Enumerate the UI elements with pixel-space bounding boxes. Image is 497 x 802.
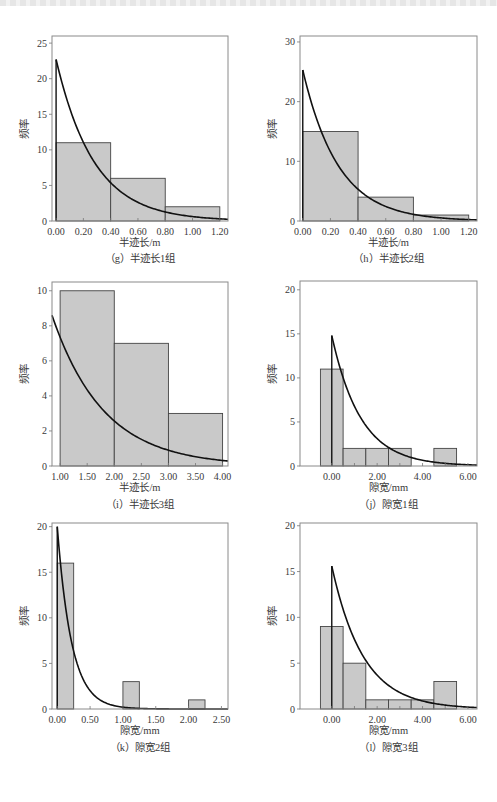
panel-caption: （k）隙宽2组 (110, 741, 172, 753)
y-tick-label: 15 (285, 566, 295, 577)
x-tick-label: 6.00 (459, 714, 477, 725)
x-tick-label: 1.00 (184, 226, 202, 237)
x-tick-label: 0.60 (129, 226, 147, 237)
histogram-bar (343, 663, 366, 709)
x-tick-label: 0.00 (323, 471, 341, 482)
y-tick-label: 30 (285, 36, 295, 47)
x-tick-label: 4.00 (414, 714, 432, 725)
x-tick-label: 0.50 (81, 714, 99, 725)
exponential-fit-curve (57, 527, 228, 709)
y-tick-label: 10 (285, 372, 295, 383)
x-tick-label: 3.00 (160, 471, 178, 482)
x-tick-label: 1.00 (432, 226, 450, 237)
chart-panel-g: 05101520250.000.200.400.600.801.001.20频率… (18, 36, 229, 264)
y-tick-label: 20 (37, 73, 47, 84)
x-tick-label: 1.50 (78, 471, 96, 482)
x-tick-label: 0.00 (294, 226, 312, 237)
y-tick-label: 8 (42, 320, 47, 331)
chart-panel-l: 051015200.002.004.006.00频率隙宽/mm（l）隙宽3组 (266, 520, 477, 753)
x-tick-label: 0.40 (102, 226, 120, 237)
y-axis-title: 频率 (18, 606, 30, 626)
x-tick-label: 1.20 (211, 226, 229, 237)
histogram-bars (320, 627, 456, 709)
x-axis-title: 隙宽/mm (369, 481, 408, 493)
x-axis-title: 隙宽/mm (369, 724, 408, 736)
histogram-bar (57, 563, 73, 709)
x-tick-label: 0.20 (322, 226, 340, 237)
exponential-fit-curve (332, 336, 477, 465)
x-tick-label: 0.40 (349, 226, 367, 237)
chart-panel-h: 01020300.000.200.400.600.801.001.20频率半迹长… (266, 36, 477, 264)
x-tick-label: 1.00 (114, 714, 132, 725)
histogram-bar (111, 178, 166, 221)
y-tick-label: 20 (285, 96, 295, 107)
plot-frame (52, 523, 228, 709)
y-tick-label: 5 (290, 658, 295, 669)
panel-caption: （j）隙宽1组 (359, 498, 418, 510)
x-tick-label: 2.50 (133, 471, 151, 482)
panel-caption: （h）半迹长2组 (353, 252, 425, 264)
x-tick-label: 6.00 (459, 471, 477, 482)
x-tick-label: 0.00 (323, 714, 341, 725)
x-tick-label: 2.50 (213, 714, 231, 725)
histogram-bar (123, 682, 139, 709)
histogram-bar (56, 143, 111, 221)
panel-caption: （i）半迹长3组 (106, 498, 175, 510)
chart-panel-k: 051015200.000.501.001.502.002.50频率隙宽/mm（… (18, 521, 230, 753)
y-axis-title: 频率 (18, 119, 30, 139)
y-tick-label: 0 (42, 704, 47, 715)
y-tick-label: 20 (285, 520, 295, 531)
histogram-bars (57, 563, 205, 709)
x-tick-label: 0.60 (377, 226, 395, 237)
x-tick-label: 2.00 (180, 714, 198, 725)
y-tick-label: 5 (42, 658, 47, 669)
x-tick-label: 1.00 (51, 471, 69, 482)
histogram-bars (320, 369, 456, 466)
x-tick-label: 0.00 (47, 226, 65, 237)
y-axis-title: 频率 (266, 364, 278, 384)
y-tick-label: 10 (37, 144, 47, 155)
y-tick-label: 0 (290, 461, 295, 472)
x-axis-title: 半迹长/m (368, 236, 409, 248)
chart-panel-i: 02468101.001.502.002.503.003.504.00频率半迹长… (18, 282, 231, 510)
histogram-bar (358, 197, 413, 221)
y-tick-label: 10 (285, 156, 295, 167)
y-tick-label: 25 (37, 38, 47, 49)
x-tick-label: 4.00 (214, 471, 232, 482)
histogram-bar (168, 413, 222, 466)
y-tick-label: 15 (37, 567, 47, 578)
panel-caption: （l）隙宽3组 (359, 741, 418, 753)
histogram-bar (60, 291, 114, 466)
y-tick-label: 5 (42, 180, 47, 191)
y-tick-label: 10 (37, 612, 47, 623)
x-tick-label: 0.20 (75, 226, 93, 237)
y-tick-label: 0 (42, 461, 47, 472)
y-tick-label: 4 (42, 390, 47, 401)
y-tick-label: 5 (290, 416, 295, 427)
x-tick-label: 1.50 (147, 714, 165, 725)
x-tick-label: 0.00 (49, 714, 67, 725)
x-tick-label: 3.50 (187, 471, 205, 482)
y-tick-label: 0 (290, 704, 295, 715)
y-tick-label: 6 (42, 355, 47, 366)
histogram-figure: 05101520250.000.200.400.600.801.001.20频率… (0, 0, 497, 802)
y-tick-label: 0 (290, 216, 295, 227)
x-tick-label: 0.80 (405, 226, 423, 237)
x-tick-label: 0.80 (156, 226, 174, 237)
histogram-bar (189, 700, 205, 709)
y-axis-title: 频率 (266, 606, 278, 626)
chart-panel-j: 051015200.002.004.006.00频率隙宽/mm（j）隙宽1组 (266, 281, 477, 510)
y-tick-label: 20 (37, 521, 47, 532)
x-tick-label: 4.00 (414, 471, 432, 482)
y-tick-label: 15 (285, 328, 295, 339)
x-tick-label: 2.00 (106, 471, 124, 482)
y-tick-label: 15 (37, 109, 47, 120)
y-tick-label: 0 (42, 216, 47, 227)
panel-caption: （g）半迹长1组 (105, 252, 177, 264)
y-tick-label: 10 (37, 285, 47, 296)
histogram-bars (56, 143, 220, 221)
y-axis-title: 频率 (266, 119, 278, 139)
x-axis-title: 半迹长/m (119, 481, 160, 493)
x-tick-label: 1.20 (460, 226, 478, 237)
y-tick-label: 20 (285, 284, 295, 295)
